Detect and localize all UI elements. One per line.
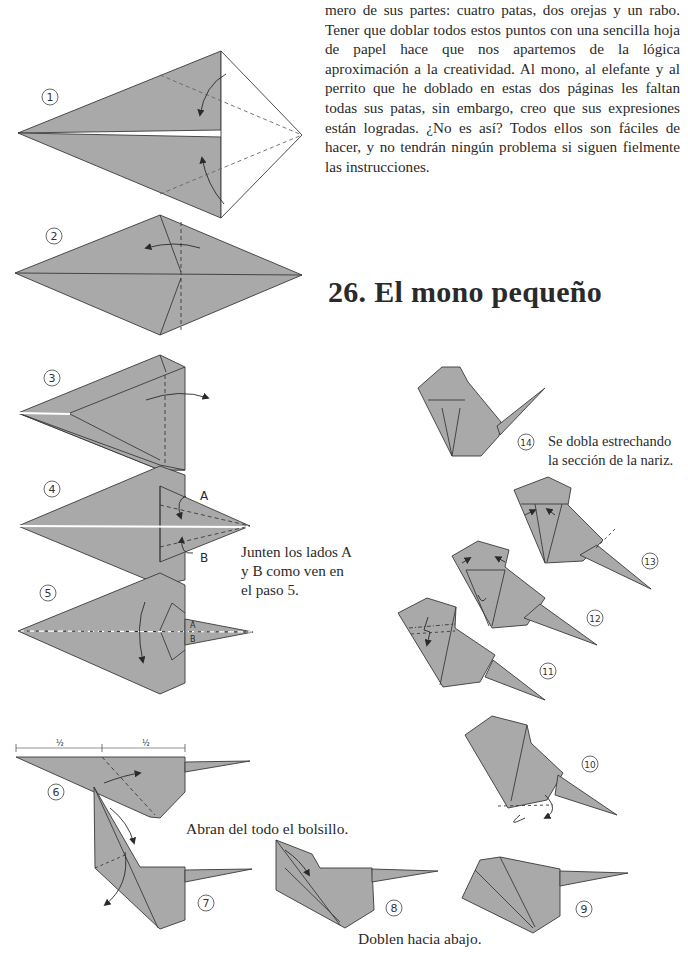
step-number-8: 8 <box>386 900 402 916</box>
svg-text:9: 9 <box>581 903 588 916</box>
svg-text:6: 6 <box>53 786 60 799</box>
step-number-11: 11 <box>540 663 556 679</box>
step-9-diagram <box>462 857 628 933</box>
step-1-diagram <box>18 51 302 218</box>
step-number-10: 10 <box>582 756 598 772</box>
svg-text:10: 10 <box>584 760 596 770</box>
svg-text:5: 5 <box>45 587 52 600</box>
label-a-step5: A <box>190 621 196 630</box>
svg-text:12: 12 <box>589 614 600 624</box>
step-6-diagram <box>16 744 250 818</box>
step-7-diagram <box>94 787 252 929</box>
step-number-6: 6 <box>48 784 64 800</box>
svg-text:8: 8 <box>391 902 398 915</box>
step-number-9: 9 <box>576 901 592 917</box>
half-label-2: ½ <box>142 739 150 748</box>
label-a-step4: A <box>200 489 209 503</box>
svg-text:14: 14 <box>520 438 532 448</box>
step-number-14: 14 <box>518 434 534 450</box>
step-13-diagram <box>514 477 651 589</box>
svg-text:2: 2 <box>51 230 58 243</box>
svg-text:13: 13 <box>644 557 655 567</box>
step-number-2: 2 <box>46 228 62 244</box>
step-number-3: 3 <box>44 370 60 386</box>
step-number-7: 7 <box>198 895 214 911</box>
svg-text:3: 3 <box>49 372 56 385</box>
step-8-diagram <box>276 840 438 928</box>
origami-diagrams: A B A B ½ ½ 1 2 3 4 5 6 7 8 9 10 11 12 1… <box>0 0 688 953</box>
label-b-step5: B <box>190 635 196 644</box>
step-number-1: 1 <box>42 89 58 105</box>
svg-text:4: 4 <box>49 483 56 496</box>
label-b-step4: B <box>200 551 208 565</box>
step-number-5: 5 <box>40 585 56 601</box>
svg-text:1: 1 <box>47 91 54 104</box>
step-number-13: 13 <box>642 553 658 569</box>
half-label-1: ½ <box>56 739 64 748</box>
svg-text:7: 7 <box>203 897 210 910</box>
step-number-4: 4 <box>44 481 60 497</box>
svg-text:11: 11 <box>542 667 553 677</box>
step-number-12: 12 <box>587 610 603 626</box>
